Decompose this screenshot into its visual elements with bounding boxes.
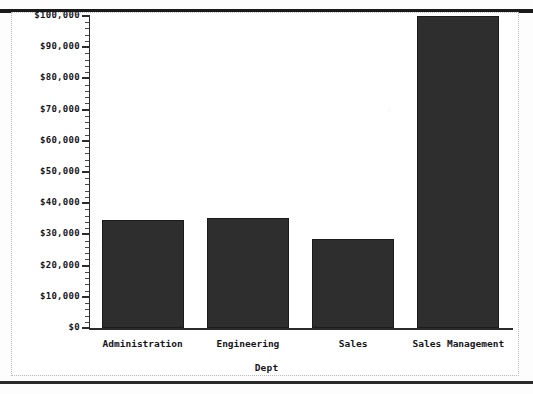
x-axis-line [89, 328, 513, 330]
y-axis-tick-label: $80,000 [0, 72, 80, 84]
x-axis-tick-label: Engineering [195, 338, 300, 349]
y-axis-tick-label-text: $90,000 [4, 41, 80, 51]
y-axis-tick-label: $50,000 [0, 166, 80, 178]
y-axis-tick-label: $70,000 [0, 104, 80, 116]
y-axis-tick-label: $10,000 [0, 291, 80, 303]
y-axis-tick-label-text: $30,000 [4, 228, 80, 238]
x-axis-tick-label: Sales [301, 338, 406, 349]
plot-area [90, 16, 512, 328]
y-axis-tick-label: $0 [0, 322, 80, 334]
y-axis-tick-label-text: $100,000 [4, 10, 80, 20]
bar[interactable] [102, 220, 184, 328]
y-axis-tick-label: $100,000 [0, 10, 80, 22]
y-axis-tick-label-text: $60,000 [4, 135, 80, 145]
chart-page: $0$10,000$20,000$30,000$40,000$50,000$60… [0, 0, 533, 394]
x-axis-tick-label: Administration [90, 338, 195, 349]
y-axis-tick-label-text: $10,000 [4, 291, 80, 301]
y-axis-tick-label-text: $50,000 [4, 166, 80, 176]
y-axis-tick-label-text: $20,000 [4, 260, 80, 270]
y-axis-tick-label-text: $0 [4, 322, 80, 332]
y-axis-tick-label-text: $70,000 [4, 104, 80, 114]
bar[interactable] [417, 16, 499, 328]
bar[interactable] [312, 239, 394, 328]
y-axis-tick-label: $90,000 [0, 41, 80, 53]
x-axis-title: Dept [0, 362, 533, 373]
y-axis-tick-label: $40,000 [0, 197, 80, 209]
bar[interactable] [207, 218, 289, 328]
y-axis-tick-label: $30,000 [0, 228, 80, 240]
y-axis-tick-label: $20,000 [0, 260, 80, 272]
y-axis-tick-label-text: $80,000 [4, 72, 80, 82]
x-axis-tick-label: Sales Management [406, 338, 511, 349]
y-axis-tick-label-text: $40,000 [4, 197, 80, 207]
y-axis-tick-label: $60,000 [0, 135, 80, 147]
bar-chart: $0$10,000$20,000$30,000$40,000$50,000$60… [0, 0, 533, 394]
